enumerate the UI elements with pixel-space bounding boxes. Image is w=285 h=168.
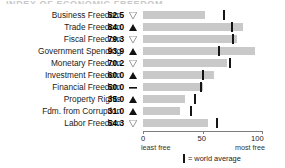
indicator-row: Investment Freedom60.0 [0,69,285,81]
world-average-marker [202,70,204,81]
indicator-plot [143,117,262,129]
score-bar [143,35,237,43]
up-triangle-icon [128,69,140,81]
indicator-row: Business Freedom52.5 [0,9,285,21]
indicator-row: Government Spending93.9 [0,45,285,57]
world-average-marker [223,10,225,21]
up-triangle-icon [128,105,140,117]
indicator-score: 35.0 [100,93,124,105]
axis-label-0: 0 [141,134,145,143]
indicator-plot [143,21,262,33]
indicator-plot [143,57,262,69]
indicator-row: Financial Freedom50.0 [0,81,285,93]
down-triangle-icon [128,117,140,129]
world-average-marker [231,22,233,33]
score-bar [143,95,185,103]
axis-caption-least-free: least free [141,143,171,152]
down-triangle-icon [128,9,140,21]
down-triangle-icon [128,57,140,69]
economic-freedom-chart: INDEX OF ECONOMIC FREEDOM Business Freed… [0,0,285,168]
dash-icon [128,81,140,93]
score-bar [143,107,180,115]
world-average-marker [194,94,196,105]
indicator-row: Monetary Freedom70.2 [0,57,285,69]
indicator-score: 79.3 [100,33,124,45]
indicator-plot [143,33,262,45]
score-bar [143,47,255,55]
world-average-marker [190,106,192,117]
indicator-plot [143,69,262,81]
legend-label: = world average [188,154,241,163]
up-triangle-icon [128,21,140,33]
indicator-score: 52.5 [100,9,124,21]
world-average-marker [216,118,218,129]
world-average-marker [200,82,202,93]
world-average-marker [232,34,234,45]
indicator-score: 93.9 [100,45,124,57]
score-bar [143,23,243,31]
indicator-score: 31.0 [100,105,124,117]
indicator-plot [143,45,262,57]
indicator-row: Labor Freedom54.3 [0,117,285,129]
indicator-rows: Business Freedom52.5Trade Freedom84.0Fis… [0,9,285,129]
indicator-row: Property Rights35.0 [0,93,285,105]
indicator-score: 60.0 [100,69,124,81]
indicator-score: 70.2 [100,57,124,69]
up-triangle-icon [128,45,140,57]
indicator-plot [143,93,262,105]
indicator-row: Fiscal Freedom79.3 [0,33,285,45]
world-average-marker [229,58,231,69]
indicator-plot [143,9,262,21]
world-average-marker [218,46,220,57]
axis-caption-most-free: most free [235,143,265,152]
score-bar [143,83,203,91]
indicator-score: 50.0 [100,81,124,93]
score-bar [143,71,214,79]
indicator-row: Trade Freedom84.0 [0,21,285,33]
axis-label-50: 50 [198,134,206,143]
axis-label-100: 100 [251,134,264,143]
indicator-plot [143,105,262,117]
indicator-score: 84.0 [100,21,124,33]
score-bar [143,59,227,67]
chart-title-sliver: INDEX OF ECONOMIC FREEDOM [6,0,256,4]
score-bar [143,11,205,19]
indicator-row: Fdm. from Corruption31.0 [0,105,285,117]
down-triangle-icon [128,33,140,45]
indicator-score: 54.3 [100,117,124,129]
indicator-plot [143,81,262,93]
score-bar [143,119,208,127]
legend: = world average [183,153,241,164]
world-average-tick-icon [183,154,185,163]
up-triangle-icon [128,93,140,105]
